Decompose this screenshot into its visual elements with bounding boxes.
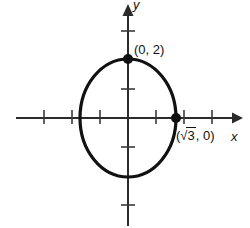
coordinate-plane-svg <box>0 0 250 228</box>
label-top-vertex: (0, 2) <box>134 43 164 56</box>
coordinate-suffix: , 0) <box>196 128 215 143</box>
radicand-value: 3 <box>186 127 195 143</box>
vertex-point-right <box>171 113 181 123</box>
label-right-vertex: (√3, 0) <box>176 128 215 142</box>
radical-group: √3 <box>180 128 195 142</box>
x-axis-arrowhead <box>232 113 243 124</box>
ellipse-figure: (0, 2) (√3, 0) x y <box>0 0 250 228</box>
x-axis-label: x <box>231 130 238 143</box>
vertex-point-top <box>123 54 133 64</box>
y-axis-arrowhead <box>123 4 134 16</box>
y-axis-label: y <box>133 0 140 11</box>
